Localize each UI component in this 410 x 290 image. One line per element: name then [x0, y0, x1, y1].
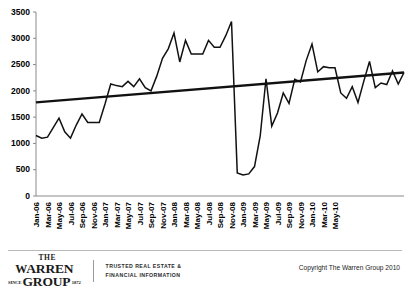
x-tick-label: May-06	[55, 201, 64, 229]
x-tick-label: Nov-07	[159, 201, 168, 228]
y-tick-label: 0	[25, 191, 30, 201]
y-tick-label: 3500	[11, 7, 30, 17]
x-tick-label: Mar-08	[182, 201, 191, 227]
x-tick-label: Jan-06	[32, 201, 41, 227]
x-axis-tick-labels: Jan-06Mar-06May-06Jul-06Sep-06Nov-06Jan-…	[32, 201, 340, 229]
x-tick-label: May-07	[124, 201, 133, 229]
logo-group-text: GROUP	[23, 275, 71, 289]
x-tick-label: Jul-08	[205, 201, 214, 225]
x-tick-label: Sep-06	[78, 201, 87, 228]
x-tick-label: Mar-10	[320, 201, 329, 227]
tagline-line-1: Trusted Real Estate &	[106, 262, 182, 271]
y-tick-label: 1000	[11, 138, 30, 148]
x-tick-label: May-08	[193, 201, 202, 229]
logo-vertical-rule	[93, 260, 94, 282]
chart-svg: 0500100015002000250030003500 Jan-06Mar-0…	[0, 0, 410, 250]
footer-divider	[8, 250, 402, 251]
logo-wordmark: THE W ARREN SINCE GROUP 1872	[8, 254, 81, 289]
y-axis-tick-labels: 0500100015002000250030003500	[11, 7, 30, 201]
x-tick-label: Jan-10	[308, 201, 317, 227]
x-tick-label: Nov-08	[228, 201, 237, 228]
y-tick-label: 500	[16, 164, 30, 174]
y-tick-label: 2000	[11, 86, 30, 96]
x-tick-label: Nov-06	[90, 201, 99, 228]
logo-year-text: 1872	[72, 281, 81, 286]
logo-tagline: Trusted Real Estate & Financial Informat…	[106, 262, 182, 280]
x-tick-label: Sep-08	[216, 201, 225, 228]
y-tick-label: 1500	[11, 112, 30, 122]
copyright-text: Copyright The Warren Group 2010	[299, 264, 400, 271]
chart-figure: 0500100015002000250030003500 Jan-06Mar-0…	[0, 0, 410, 250]
x-tick-label: May-09	[262, 201, 271, 229]
y-tick-label: 3000	[11, 33, 30, 43]
x-tick-label: May-10	[331, 201, 340, 229]
logo-warren-text: ARREN	[26, 262, 73, 276]
trend-line	[36, 72, 404, 102]
x-tick-label: Jan-07	[101, 201, 110, 227]
logo-since-text: SINCE	[8, 281, 22, 286]
x-tick-label: Mar-07	[113, 201, 122, 227]
x-tick-label: Jul-07	[136, 201, 145, 225]
footer: THE W ARREN SINCE GROUP 1872 Trusted Rea…	[0, 250, 410, 290]
x-tick-label: Mar-09	[251, 201, 260, 227]
x-tick-label: Nov-09	[297, 201, 306, 228]
warren-group-logo: THE W ARREN SINCE GROUP 1872 Trusted Rea…	[8, 254, 181, 289]
x-tick-label: Jan-08	[170, 201, 179, 227]
logo-group-row: SINCE GROUP 1872	[8, 275, 81, 289]
x-tick-label: Mar-06	[44, 201, 53, 227]
y-tick-label: 2500	[11, 59, 30, 69]
y-axis: 0500100015002000250030003500	[11, 7, 36, 201]
x-axis: Jan-06Mar-06May-06Jul-06Sep-06Nov-06Jan-…	[32, 196, 404, 229]
x-tick-label: Jul-06	[67, 201, 76, 225]
logo-warren-row: W ARREN	[15, 262, 73, 276]
x-tick-label: Sep-09	[285, 201, 294, 228]
x-tick-label: Jan-09	[239, 201, 248, 227]
x-tick-label: Jul-09	[274, 201, 283, 225]
tagline-line-2: Financial Information	[106, 271, 182, 280]
x-tick-label: Sep-07	[147, 201, 156, 228]
